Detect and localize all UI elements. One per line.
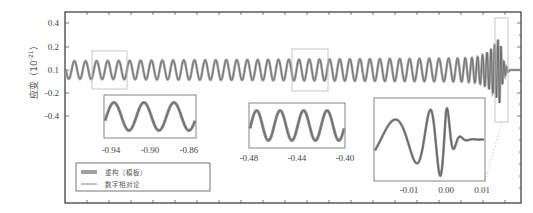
ytick-label: 0.4: [48, 18, 60, 28]
inset-merger: -0.01 0.00 0.01: [374, 98, 490, 195]
ytick-label: 0.1: [48, 65, 59, 75]
svg-text:应变（10-21）: 应变（10-21）: [27, 41, 39, 98]
inset-xtick-label: 0.00: [438, 185, 454, 195]
legend-label-nr: 数字相对论: [105, 180, 140, 189]
inset-xtick-label: -0.90: [141, 145, 160, 155]
y-tick-labels: 0.4 0.2 0.1 -0.2 -0.4: [45, 18, 60, 121]
inset-xtick-label: -0.48: [240, 153, 259, 163]
inset-mid: -0.48 -0.44 -0.40: [240, 103, 355, 163]
inset-xtick-label: -0.94: [102, 145, 121, 155]
ytick-label: 0.2: [48, 42, 59, 52]
legend: 重构（模板） 数字相对论: [76, 163, 210, 191]
inset-xtick-label: -0.44: [288, 153, 307, 163]
ytick-label: -0.2: [45, 88, 59, 98]
inset-early: -0.94 -0.90 -0.86: [102, 95, 199, 155]
inset-xtick-label: 0.01: [474, 185, 490, 195]
ytick-label: -0.4: [45, 111, 60, 121]
inset-xtick-label: -0.01: [400, 185, 419, 195]
legend-label-template: 重构（模板）: [105, 168, 147, 177]
gw-strain-chart: 应变（10-21） 0.4 0.2 0.1 -0.2 -0.4 -0.94 -0…: [0, 0, 533, 213]
inset-xtick-label: -0.86: [180, 145, 199, 155]
legend-swatch-template: [81, 170, 97, 174]
inset-xtick-label: -0.40: [336, 153, 355, 163]
zoom-connector: [485, 122, 502, 181]
y-axis-label: 应变（10-21）: [27, 41, 39, 98]
